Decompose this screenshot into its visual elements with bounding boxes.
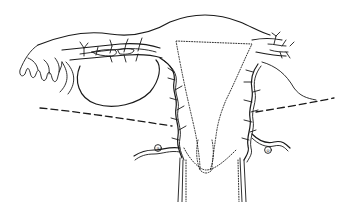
- right-dashed-line: [256, 98, 334, 112]
- left-artery-branches: [168, 68, 186, 140]
- right-tube-upper: [252, 39, 282, 41]
- right-ligament: [262, 62, 316, 100]
- left-uterine-artery-inner: [163, 60, 184, 160]
- right-vessel-branch-lower-inner: [252, 138, 288, 151]
- left-ligament: [60, 62, 74, 94]
- vagina-right-wall: [240, 158, 246, 202]
- left-fimbriae: [20, 45, 62, 82]
- right-vessel-branch-lower: [252, 134, 290, 148]
- left-fimbriae-inner: [28, 58, 59, 74]
- cervical-canal: [197, 140, 214, 170]
- lower-uterus-dotted-curve: [184, 148, 236, 170]
- vagina-right-wall-dotted: [238, 160, 239, 202]
- right-marker-text: o: [266, 147, 269, 153]
- illustration-canvas: a o: [0, 0, 340, 202]
- uterus-fundus-outline: [38, 15, 270, 45]
- left-dashed-line: [40, 108, 172, 126]
- left-tube-vessels: [80, 44, 156, 56]
- anatomical-diagram: a o: [0, 0, 340, 202]
- left-vessel-branch-lower-inner: [135, 151, 180, 160]
- right-tube-vessels: [268, 32, 294, 58]
- left-marker-text: a: [157, 145, 160, 151]
- left-ovary: [77, 60, 159, 106]
- vagina-left-wall: [178, 158, 183, 202]
- right-marker-label: o: [265, 147, 272, 154]
- left-marker-label: a: [155, 145, 162, 152]
